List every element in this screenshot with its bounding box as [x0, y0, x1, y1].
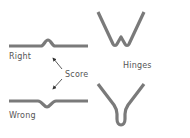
hinge-v-shape — [98, 84, 144, 125]
score-arrows — [53, 58, 62, 89]
label-wrong: Wrong — [9, 112, 36, 120]
label-right: Right — [9, 53, 31, 61]
right-fold-strip — [9, 40, 88, 46]
label-score: Score — [65, 71, 88, 79]
score-hinge-diagram: Right Wrong Score Hinges — [0, 0, 190, 138]
label-hinges: Hinges — [123, 62, 152, 70]
hinge-w-shape — [98, 12, 144, 46]
wrong-fold-strip — [9, 101, 88, 107]
arrow-to-wrong-score — [53, 79, 62, 89]
arrow-to-right-score — [53, 58, 62, 69]
